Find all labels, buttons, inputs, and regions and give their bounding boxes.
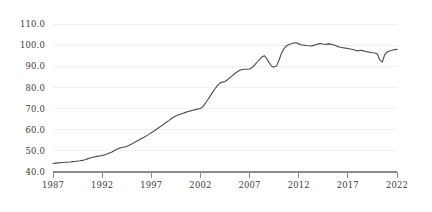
y-axis-tick-label: 100.0 — [20, 40, 45, 50]
y-axis-tick-label: 50.0 — [26, 146, 45, 156]
y-axis-tick-label: 110.0 — [20, 19, 45, 29]
x-axis-tick-label: 2002 — [189, 180, 211, 190]
x-axis-tick-label: 1992 — [91, 180, 113, 190]
x-axis-tick-label: 1987 — [42, 180, 64, 190]
x-axis-tick-label: 2022 — [386, 180, 408, 190]
y-axis-tick-label: 80.0 — [26, 83, 45, 93]
y-axis-tick-label: 90.0 — [26, 61, 45, 71]
x-axis-tick-labels: 19871992199720022007201220172022 — [42, 180, 408, 190]
data-series-line — [53, 43, 397, 164]
y-axis-tick-labels: 40.050.060.070.080.090.0100.0110.0 — [20, 19, 45, 177]
x-axis-tick-label: 2017 — [337, 180, 359, 190]
x-axis-tick-label: 1997 — [140, 180, 162, 190]
y-axis-tick-label: 40.0 — [26, 167, 45, 177]
y-axis-tick-label: 70.0 — [26, 104, 45, 114]
x-axis-ticks — [53, 172, 397, 178]
y-axis-tick-label: 60.0 — [26, 125, 45, 135]
gridlines — [53, 24, 397, 151]
x-axis-tick-label: 2012 — [288, 180, 310, 190]
x-axis-tick-label: 2007 — [239, 180, 261, 190]
chart-container: 40.050.060.070.080.090.0100.0110.0 19871… — [0, 0, 432, 212]
line-chart: 40.050.060.070.080.090.0100.0110.0 19871… — [0, 0, 432, 212]
